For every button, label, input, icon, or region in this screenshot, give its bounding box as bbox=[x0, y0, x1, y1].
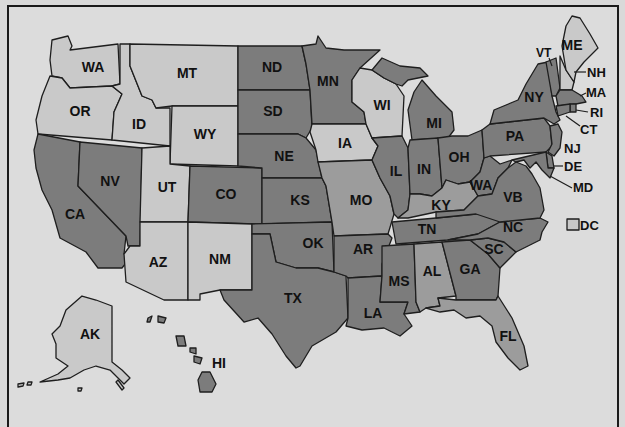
hawaii-islands[interactable] bbox=[147, 316, 216, 392]
label-OK: OK bbox=[303, 235, 324, 251]
label-WY: WY bbox=[194, 126, 217, 142]
label-MI: MI bbox=[426, 115, 442, 131]
label-SC: SC bbox=[484, 241, 503, 257]
label-MT: MT bbox=[177, 65, 198, 81]
label-TX: TX bbox=[284, 290, 303, 306]
label-NV: NV bbox=[100, 173, 120, 189]
label-IL: IL bbox=[390, 163, 403, 179]
label-NH: NH bbox=[587, 65, 606, 80]
label-ID: ID bbox=[132, 116, 146, 132]
label-TN: TN bbox=[418, 221, 437, 237]
label-LA: LA bbox=[364, 305, 383, 321]
label-IN: IN bbox=[417, 161, 431, 177]
label-FL: FL bbox=[499, 328, 517, 344]
state-CT[interactable] bbox=[556, 104, 570, 116]
label-AR: AR bbox=[353, 241, 373, 257]
label-AZ: AZ bbox=[149, 254, 168, 270]
label-SD: SD bbox=[263, 103, 282, 119]
dc-swatch[interactable] bbox=[567, 219, 579, 230]
label-AK: AK bbox=[80, 326, 100, 342]
label-CA: CA bbox=[65, 206, 85, 222]
dc-legend: DC bbox=[567, 218, 599, 233]
leader-CT bbox=[566, 116, 580, 126]
label-ME: ME bbox=[562, 37, 583, 53]
label-KY: KY bbox=[431, 197, 451, 213]
label-AL: AL bbox=[423, 263, 442, 279]
label-NC: NC bbox=[503, 219, 523, 235]
label-OR: OR bbox=[70, 103, 91, 119]
label-WV: WA bbox=[470, 177, 493, 193]
label-IA: IA bbox=[338, 135, 352, 151]
label-MO: MO bbox=[350, 192, 373, 208]
label-GA: GA bbox=[460, 261, 481, 277]
alaska-islands bbox=[18, 380, 124, 391]
label-HI: HI bbox=[212, 355, 226, 371]
label-KS: KS bbox=[290, 192, 309, 208]
leader-RI bbox=[576, 110, 588, 112]
label-ND: ND bbox=[262, 59, 282, 75]
label-MA: MA bbox=[586, 85, 607, 100]
label-UT: UT bbox=[158, 179, 177, 195]
label-DE: DE bbox=[564, 159, 582, 174]
leader-MD bbox=[550, 176, 572, 188]
label-NY: NY bbox=[524, 89, 544, 105]
label-MD: MD bbox=[573, 180, 593, 195]
state-RI[interactable] bbox=[570, 104, 576, 112]
label-WA: WA bbox=[82, 59, 105, 75]
label-DC: DC bbox=[580, 218, 599, 233]
label-NE: NE bbox=[274, 148, 293, 164]
label-MS: MS bbox=[389, 273, 410, 289]
label-VT: VT bbox=[536, 46, 552, 60]
label-MN: MN bbox=[317, 73, 339, 89]
label-NJ: NJ bbox=[564, 141, 581, 156]
label-NM: NM bbox=[209, 251, 231, 267]
label-CO: CO bbox=[216, 186, 237, 202]
label-WI: WI bbox=[373, 97, 390, 113]
label-PA: PA bbox=[506, 128, 524, 144]
label-VA: VB bbox=[503, 189, 522, 205]
label-OH: OH bbox=[449, 149, 470, 165]
label-RI: RI bbox=[590, 105, 603, 120]
label-CT: CT bbox=[580, 122, 597, 137]
